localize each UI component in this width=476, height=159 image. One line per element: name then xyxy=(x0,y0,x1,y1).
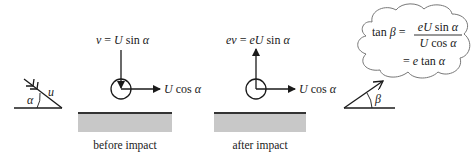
after-horizontal-label: U cos α xyxy=(299,82,337,96)
beta-arc xyxy=(367,93,372,108)
incoming-arrow-icon xyxy=(26,79,34,86)
thought-bubble: tan β = eU sin α U cos α = e tan α xyxy=(358,4,470,78)
alpha-arc xyxy=(37,93,40,108)
after-caption: after impact xyxy=(232,139,288,152)
outgoing-trajectory: β xyxy=(344,81,395,108)
incoming-speed-label: u xyxy=(48,85,54,99)
bounce-diagram: u α v = U sin α U cos α before impact ev… xyxy=(0,0,476,159)
before-caption: before impact xyxy=(93,139,157,152)
bubble-line2: = e tan α xyxy=(403,54,446,68)
after-vertical-label: ev = eU sin α xyxy=(226,33,290,47)
bubble-denominator: U cos α xyxy=(420,36,458,50)
incoming-angle-label: α xyxy=(27,93,34,107)
before-horizontal-label: U cos α xyxy=(164,82,202,96)
after-impact-panel: ev = eU sin α U cos α after impact xyxy=(214,33,337,152)
before-impact-panel: v = U sin α U cos α before impact xyxy=(78,33,202,152)
outgoing-angle-label: β xyxy=(374,92,381,106)
bubble-line1-lhs: tan β = xyxy=(372,25,406,39)
before-vertical-label: v = U sin α xyxy=(96,33,150,47)
after-ground xyxy=(214,113,306,132)
before-ground xyxy=(78,113,172,132)
incoming-trajectory: u α xyxy=(14,79,62,108)
bubble-numerator: eU sin α xyxy=(418,20,459,34)
